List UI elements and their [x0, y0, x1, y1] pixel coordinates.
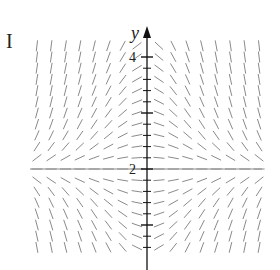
slope-segment	[215, 85, 218, 96]
slope-segment	[244, 52, 246, 63]
slope-segment	[90, 143, 99, 150]
slope-segment	[78, 108, 82, 118]
slope-segment	[169, 109, 177, 116]
slope-segment	[90, 188, 99, 195]
slope-segment	[198, 131, 205, 139]
y-axis-label: y	[129, 23, 139, 43]
slope-segment	[36, 74, 38, 85]
slope-segment	[185, 97, 191, 106]
slope-segment	[230, 63, 232, 74]
slope-segment	[200, 97, 204, 107]
slope-segment	[107, 41, 111, 51]
slope-segment	[255, 154, 264, 161]
slope-segment	[105, 120, 112, 128]
slope-segment	[170, 75, 176, 84]
slope-segment	[92, 97, 97, 107]
slope-segment	[258, 96, 260, 107]
slope-segment	[105, 221, 112, 230]
slope-segment	[50, 242, 52, 253]
slope-segment	[132, 77, 142, 82]
slope-segment	[50, 220, 53, 231]
slope-segment	[118, 133, 128, 138]
slope-segment	[258, 63, 260, 74]
slope-segment	[226, 155, 235, 161]
slope-segment	[64, 220, 68, 230]
slope-segment	[78, 220, 82, 230]
slope-segment	[185, 243, 190, 253]
slope-segment	[186, 63, 190, 73]
slope-segment	[228, 209, 232, 219]
slope-segment	[78, 231, 82, 241]
slope-segment	[243, 119, 247, 129]
slope-segment	[50, 231, 53, 242]
slope-segment	[78, 85, 81, 96]
slope-segment	[36, 220, 39, 231]
slope-segment	[168, 190, 178, 194]
slope-segment	[244, 63, 246, 74]
slope-segment	[64, 231, 67, 242]
slope-segment	[183, 144, 193, 149]
slope-segment	[132, 191, 143, 193]
slope-field-plot: y 42	[0, 0, 280, 270]
slope-segment	[103, 179, 114, 182]
slope-segment	[228, 119, 232, 129]
slope-segment	[120, 64, 126, 73]
slope-segment	[171, 52, 176, 62]
slope-segment	[258, 231, 260, 242]
slope-segment	[76, 188, 84, 196]
slope-segment	[36, 242, 38, 253]
slope-segment	[213, 198, 219, 207]
slope-segment	[89, 156, 99, 160]
slope-segment	[214, 231, 218, 241]
slope-segment	[154, 180, 165, 181]
slope-segment	[214, 220, 218, 230]
slope-segment	[214, 108, 218, 118]
slope-segment	[168, 179, 179, 181]
slope-segment	[132, 180, 143, 181]
slope-segment	[200, 74, 203, 84]
slope-segment	[75, 178, 85, 183]
slope-segment	[132, 100, 142, 104]
slope-segment	[49, 209, 53, 219]
slope-field-figure: I y 42	[0, 0, 280, 270]
slope-segment	[92, 231, 97, 241]
slope-segment	[63, 131, 69, 140]
slope-segment	[132, 111, 142, 115]
slope-segment	[78, 242, 81, 253]
slope-segment	[62, 143, 69, 151]
slope-segment	[118, 190, 128, 194]
slope-segment	[120, 41, 125, 51]
slope-segment	[184, 210, 191, 218]
slope-segment	[78, 97, 82, 107]
slope-segment	[240, 155, 249, 161]
slope-segment	[154, 245, 163, 251]
slope-segment	[36, 231, 38, 242]
slope-segment	[258, 74, 260, 85]
slope-segment	[105, 109, 112, 118]
slope-segment	[243, 209, 247, 219]
slope-segment	[200, 231, 204, 241]
slope-segment	[64, 74, 66, 85]
slope-segment	[199, 120, 205, 129]
slope-segment	[229, 220, 233, 230]
slope-segment	[51, 40, 52, 51]
slope-segment	[119, 243, 126, 251]
slope-segment	[64, 242, 67, 253]
slope-segment	[199, 220, 204, 230]
y-tick-label: 2	[129, 162, 136, 177]
slope-segment	[49, 198, 54, 208]
slope-segment	[242, 142, 248, 151]
slope-segment	[170, 98, 177, 106]
slope-segment	[91, 209, 97, 218]
slope-segment	[258, 108, 261, 119]
slope-segment	[200, 63, 203, 74]
slope-segment	[228, 131, 233, 141]
slope-segment	[65, 40, 67, 51]
slope-segment	[132, 245, 142, 250]
slope-segment	[154, 76, 163, 82]
slope-segment	[169, 121, 178, 128]
slope-segment	[154, 99, 164, 104]
slope-segment	[118, 145, 128, 149]
slope-segment	[104, 189, 114, 194]
slope-segment	[92, 74, 96, 84]
